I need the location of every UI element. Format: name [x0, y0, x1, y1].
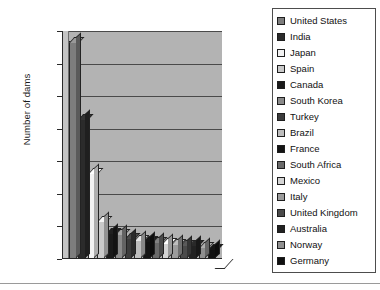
legend-swatch-icon: [277, 145, 285, 153]
y-axis-tick: [57, 194, 62, 195]
legend-item[interactable]: South Korea: [277, 93, 372, 109]
legend-item[interactable]: United States: [277, 13, 372, 29]
legend-item[interactable]: Brazil: [277, 125, 372, 141]
bar-side-face: [85, 109, 90, 258]
bar-side-face: [215, 239, 220, 258]
legend-item[interactable]: Turkey: [277, 109, 372, 125]
page-divider: [0, 283, 380, 284]
bar-side-face: [141, 231, 146, 258]
legend-item-label: India: [290, 32, 311, 42]
y-axis-tick: [57, 31, 62, 32]
legend-swatch-icon: [277, 241, 285, 249]
legend-item[interactable]: Spain: [277, 61, 372, 77]
legend-swatch-icon: [277, 17, 285, 25]
legend-item[interactable]: Italy: [277, 189, 372, 205]
y-axis-tick: [57, 226, 62, 227]
y-axis-tick: [57, 96, 62, 97]
legend-swatch-icon: [277, 193, 285, 201]
legend-item[interactable]: France: [277, 141, 372, 157]
legend-item-label: Italy: [290, 192, 307, 202]
legend-item-label: Japan: [290, 48, 316, 58]
legend-swatch-icon: [277, 225, 285, 233]
bar-chart-figure: Number of dams 0100020003000400050006000…: [0, 0, 380, 290]
y-axis-tick: [57, 129, 62, 130]
bar-side-face: [104, 211, 109, 258]
bar-side-face: [122, 225, 127, 258]
legend-item[interactable]: Norway: [277, 237, 372, 253]
x-axis-floor: [62, 258, 222, 268]
y-axis-spine: [62, 31, 63, 259]
legend-item-label: Norway: [290, 240, 322, 250]
legend-swatch-icon: [277, 161, 285, 169]
legend-item[interactable]: Australia: [277, 221, 372, 237]
legend-item[interactable]: Germany: [277, 253, 372, 269]
y-axis-tick: [57, 64, 62, 65]
legend: United StatesIndiaJapanSpainCanadaSouth …: [272, 8, 376, 273]
bar: [69, 41, 77, 259]
legend-swatch-icon: [277, 65, 285, 73]
y-axis-title: Number of dams: [21, 40, 32, 180]
bar-side-face: [94, 164, 99, 258]
legend-item-label: Canada: [290, 80, 323, 90]
legend-swatch-icon: [277, 81, 285, 89]
legend-item-label: Turkey: [290, 112, 319, 122]
legend-item-label: United Kingdom: [290, 208, 358, 218]
legend-item-label: Spain: [290, 64, 314, 74]
legend-item[interactable]: Japan: [277, 45, 372, 61]
bar-side-face: [113, 223, 118, 258]
legend-item[interactable]: South Africa: [277, 157, 372, 173]
legend-swatch-icon: [277, 113, 285, 121]
plot-area: 01000200030004000500060007000: [62, 31, 222, 259]
legend-swatch-icon: [277, 129, 285, 137]
legend-item[interactable]: Mexico: [277, 173, 372, 189]
legend-swatch-icon: [277, 257, 285, 265]
legend-swatch-icon: [277, 49, 285, 57]
legend-item-label: Germany: [290, 256, 329, 266]
legend-item-label: South Korea: [290, 96, 343, 106]
legend-swatch-icon: [277, 177, 285, 185]
legend-item[interactable]: Canada: [277, 77, 372, 93]
bar-series: [69, 31, 222, 259]
legend-item-label: Australia: [290, 224, 327, 234]
legend-swatch-icon: [277, 97, 285, 105]
legend-item[interactable]: India: [277, 29, 372, 45]
legend-item-label: South Africa: [290, 160, 341, 170]
plot-back-wall: [62, 31, 69, 259]
y-axis-tick: [57, 161, 62, 162]
legend-item-label: United States: [290, 16, 347, 26]
bar-side-face: [150, 232, 155, 258]
legend-item[interactable]: United Kingdom: [277, 205, 372, 221]
legend-item-label: France: [290, 144, 320, 154]
bar-side-face: [76, 33, 81, 258]
legend-swatch-icon: [277, 33, 285, 41]
legend-swatch-icon: [277, 209, 285, 217]
legend-item-label: Mexico: [290, 176, 320, 186]
legend-item-label: Brazil: [290, 128, 314, 138]
